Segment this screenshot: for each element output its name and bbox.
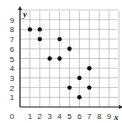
x-tick-label: 1 [28,112,33,121]
y-tick-label: 2 [10,84,15,93]
data-point [77,95,81,99]
y-tick-label: 5 [10,55,15,64]
x-tick-label: 0 [10,112,15,121]
x-tick-label: 5 [67,112,72,121]
data-point [87,85,91,89]
x-tick-label: 3 [47,112,52,121]
y-tick-label: 6 [10,45,15,54]
x-arrow-icon [119,105,122,109]
data-point [28,27,32,31]
y-tick-label: 9 [10,16,15,25]
data-point [67,85,71,89]
y-tick-label: 7 [10,35,15,44]
x-tick-label: 2 [38,112,43,121]
y-tick-label: 8 [10,25,15,34]
x-tick-label: 9 [107,112,112,121]
scatter-plot: 0123456789123456789 x y [0,0,122,123]
data-point [48,56,52,60]
data-point [87,66,91,70]
data-point [77,76,81,80]
y-tick-label: 4 [10,64,15,73]
y-tick-label: 3 [10,74,15,83]
axes [18,6,122,109]
x-tick-label: 4 [57,112,62,121]
x-tick-label: 7 [87,112,92,121]
x-axis-label: x [113,112,119,122]
data-point [67,47,71,51]
y-arrow-icon [18,6,22,10]
data-point [57,37,61,41]
y-axis-label: y [22,9,28,19]
y-tick-label: 1 [10,93,15,102]
x-tick-label: 6 [77,112,82,121]
x-tick-label: 8 [97,112,102,121]
data-point [38,37,42,41]
grid-lines [20,10,119,107]
data-point [57,56,61,60]
data-point [38,27,42,31]
